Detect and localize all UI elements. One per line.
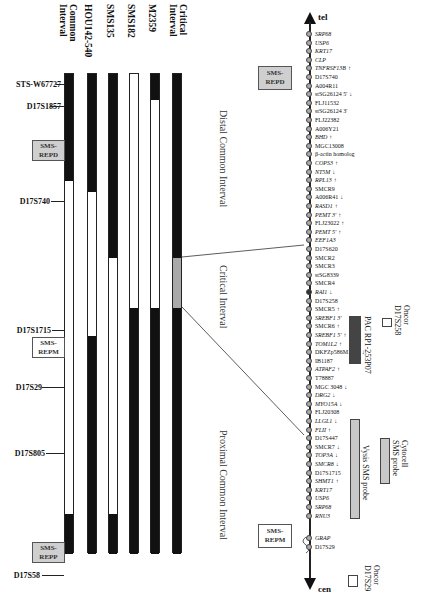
gene-name: TOM1L2 <box>315 341 337 347</box>
locus-dot-icon <box>306 349 312 355</box>
gene-name: SMCR2 <box>315 255 335 261</box>
gene-row: D17S258 <box>304 297 338 305</box>
gene-name: IB1187 <box>315 358 333 364</box>
gene-name: D17S620 <box>315 246 338 252</box>
gene-row: D17S620 <box>304 245 338 253</box>
probe-label-oncor-top: Oncor D17S258 <box>393 305 411 335</box>
gene-name: SRP68 <box>315 31 331 37</box>
gene-name: BHD <box>315 134 327 140</box>
gene-name: SMCR6 <box>315 323 335 329</box>
transcription-direction-up-icon: ↑ <box>343 332 346 338</box>
transcription-direction-down-icon: ↓ <box>336 461 339 467</box>
gene-name: LLGL1 <box>315 418 332 424</box>
locus-dot-icon <box>306 40 312 46</box>
gene-name: MGC13008 <box>315 143 344 149</box>
gene-name: FLJ23022 <box>315 220 339 226</box>
locus-dot-icon <box>306 220 312 226</box>
gene-name: KRT17 <box>315 48 332 54</box>
transcription-direction-up-icon: ↑ <box>338 212 341 218</box>
transcription-direction-down-icon: ↓ <box>337 444 340 450</box>
locus-dot-icon <box>306 108 312 114</box>
probe-pac-rp1-253p07 <box>349 316 361 364</box>
locus-dot-icon <box>306 435 312 441</box>
gene-row: PEMT 5'↑ <box>304 228 341 236</box>
gene-name: A006Y21 <box>315 126 339 132</box>
gene-name: RASD1 <box>315 203 333 209</box>
probe-cytocell-sms <box>380 438 390 484</box>
locus-dot-icon <box>306 57 312 63</box>
locus-dot-icon <box>306 315 312 321</box>
gene-row: T78887 <box>304 374 334 382</box>
locus-dot-icon <box>306 194 312 200</box>
locus-dot-icon <box>306 31 312 37</box>
probe-label-oncor-bottom: Oncor D17S29 <box>363 565 381 591</box>
gene-row: KRT17 <box>304 47 332 55</box>
gene-name: SREBF1 3' <box>315 315 341 321</box>
gene-name: SRP68 <box>315 504 331 510</box>
gene-name: FLJ11532 <box>315 100 339 106</box>
gene-row: SMCR9 <box>304 185 335 193</box>
gene-name: TNFRSF13B <box>315 65 346 71</box>
locus-dot-icon <box>306 48 312 54</box>
gene-name: stSG8339 <box>315 272 339 278</box>
transcription-direction-down-icon: ↓ <box>329 289 332 295</box>
gene-row: D17S29 <box>304 543 335 551</box>
gene-row: D17S740 <box>304 73 338 81</box>
locus-dot-icon <box>306 513 312 519</box>
probe-vysis-sms <box>350 419 360 519</box>
gene-row: FLJ23022↑ <box>304 219 344 227</box>
gene-row: D17S447 <box>304 434 338 442</box>
gene-name: D17S29 <box>315 544 335 550</box>
gene-name: T78887 <box>315 375 334 381</box>
gene-row: MGC13008 <box>304 142 344 150</box>
gene-row: RASD1↑ <box>304 202 338 210</box>
gene-row: COPS3↑ <box>304 159 338 167</box>
transcription-direction-up-icon: ↑ <box>329 134 332 140</box>
gene-name: D17S447 <box>315 435 338 441</box>
gene-row: NT5M↓ <box>304 168 335 176</box>
gene-row: D17S1715 <box>304 469 341 477</box>
gene-name: RPL13 <box>315 177 332 183</box>
gene-name: KRT17 <box>315 487 332 493</box>
locus-dot-icon <box>306 177 312 183</box>
locus-dot-icon <box>306 65 312 71</box>
locus-dot-icon <box>306 160 312 166</box>
locus-dot-icon <box>306 298 312 304</box>
gene-name: MYO15A <box>315 401 337 407</box>
gene-name: SREBF1 5' <box>315 332 341 338</box>
locus-dot-icon <box>306 263 312 269</box>
locus-dot-icon <box>306 332 312 338</box>
cen-arrow-icon <box>304 578 316 590</box>
locus-dot-icon <box>306 212 312 218</box>
gene-row: SMCR2 <box>304 254 335 262</box>
transcription-direction-up-icon: ↑ <box>339 341 342 347</box>
gene-name: stSG26124 3' <box>315 108 347 114</box>
gene-name: USP6 <box>315 495 329 501</box>
locus-dot-icon <box>306 384 312 390</box>
gene-row: A004R11 <box>304 82 338 90</box>
gene-row: MYO15A↓ <box>304 400 342 408</box>
locus-dot-icon <box>306 246 312 252</box>
locus-dot-icon <box>306 203 312 209</box>
gene-name: TOP3A <box>315 452 333 458</box>
gene-row: FLII↑ <box>304 426 331 434</box>
transcription-direction-down-icon: ↓ <box>344 384 347 390</box>
gene-row: IB1187 <box>304 357 333 365</box>
locus-dot-icon <box>306 544 312 550</box>
locus-dot-icon <box>306 358 312 364</box>
tel-label: tel <box>318 12 328 22</box>
gene-row: SMCR7↓ <box>304 443 340 451</box>
gene-name: PEMT 5' <box>315 229 336 235</box>
gene-row: stSG8339 <box>304 271 339 279</box>
gene-row: SMCR6↑ <box>304 322 340 330</box>
gene-row: RAI1↓ <box>304 288 332 296</box>
locus-dot-icon <box>306 341 312 347</box>
locus-dot-icon <box>306 83 312 89</box>
gene-name: SMCR3 <box>315 263 335 269</box>
locus-dot-icon <box>306 409 312 415</box>
gene-name: USP6 <box>315 40 329 46</box>
gene-row: USP6 <box>304 494 329 502</box>
gene-row: TOP3A↓ <box>304 451 338 459</box>
gene-row: ATPAF2↑ <box>304 365 340 373</box>
locus-dot-icon <box>306 452 312 458</box>
